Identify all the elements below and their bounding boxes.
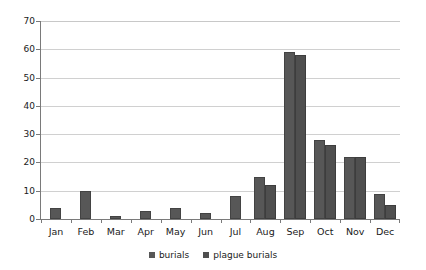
x-tick-cell [191, 219, 221, 224]
bar-group [280, 21, 310, 219]
bar-group [221, 21, 251, 219]
chart-legend: burialsplague burials [0, 250, 426, 260]
bar [344, 157, 355, 219]
x-axis-label: Oct [310, 226, 340, 238]
x-axis-label: Jun [191, 226, 221, 238]
x-tick-cell [71, 219, 101, 224]
bar-group [131, 21, 161, 219]
bar-group [161, 21, 191, 219]
y-tick-label: 0 [29, 215, 35, 224]
y-tick-label: 50 [24, 73, 35, 82]
x-tick-mark [191, 219, 192, 223]
x-tick-cell [131, 219, 161, 224]
bar [230, 196, 241, 219]
bar [80, 191, 91, 219]
x-tick-cell [340, 219, 370, 224]
bar [50, 208, 61, 219]
x-tick-mark [71, 219, 72, 223]
x-tick-cell [101, 219, 131, 224]
bar [374, 194, 385, 219]
y-tick-mark [36, 106, 40, 107]
x-tick-mark [310, 219, 311, 223]
x-tick-mark [161, 219, 162, 223]
x-axis-label: Apr [131, 226, 161, 238]
y-tick-mark [36, 162, 40, 163]
x-tick-cell [250, 219, 280, 224]
bar-group [191, 21, 221, 219]
legend-label: burials [159, 250, 189, 260]
legend-swatch-icon [149, 252, 155, 258]
y-tick-label: 70 [24, 17, 35, 26]
x-tick-cell [280, 219, 310, 224]
x-tick-cell [41, 219, 71, 224]
bar [295, 55, 306, 219]
y-tick-label: 60 [24, 45, 35, 54]
bar [254, 177, 265, 219]
bar-group [310, 21, 340, 219]
x-tick-mark [370, 219, 371, 223]
x-axis-ticks [41, 219, 400, 224]
bar [385, 205, 396, 219]
x-axis-label: Jul [221, 226, 251, 238]
legend-label: plague burials [213, 250, 277, 260]
y-tick-mark [36, 134, 40, 135]
x-tick-mark [101, 219, 102, 223]
y-tick-mark [36, 49, 40, 50]
x-axis-label: Feb [71, 226, 101, 238]
bar [265, 185, 276, 219]
y-tick-label: 30 [24, 130, 35, 139]
x-axis-label: Jan [41, 226, 71, 238]
x-tick-cell [370, 219, 400, 224]
x-tick-mark [340, 219, 341, 223]
x-axis-label: Dec [370, 226, 400, 238]
bar [355, 157, 366, 219]
bar-chart: 706050403020100 JanFebMarAprMayJunJulAug… [0, 0, 426, 270]
bar [284, 52, 295, 219]
bar-group [101, 21, 131, 219]
x-axis-labels: JanFebMarAprMayJunJulAugSepOctNovDec [41, 226, 400, 238]
x-tick-mark [131, 219, 132, 223]
x-tick-mark [280, 219, 281, 223]
bar-group [250, 21, 280, 219]
y-tick-mark [36, 21, 40, 22]
y-tick-label: 20 [24, 158, 35, 167]
x-tick-cell [221, 219, 251, 224]
bar [170, 208, 181, 219]
bars-layer [41, 21, 400, 219]
x-axis-label: Mar [101, 226, 131, 238]
bar-group [41, 21, 71, 219]
x-axis-label: May [161, 226, 191, 238]
y-tick-mark [36, 78, 40, 79]
x-tick-mark [41, 219, 42, 223]
bar-group [71, 21, 101, 219]
x-tick-mark [221, 219, 222, 223]
bar [325, 145, 336, 219]
legend-item: burials [149, 250, 189, 260]
y-tick-mark [36, 191, 40, 192]
x-tick-mark [250, 219, 251, 223]
bar-group [340, 21, 370, 219]
y-tick-label: 10 [24, 186, 35, 195]
x-axis-label: Aug [250, 226, 280, 238]
x-axis-label: Sep [280, 226, 310, 238]
bar [140, 211, 151, 219]
bar [314, 140, 325, 219]
legend-item: plague burials [203, 250, 277, 260]
bar-group [370, 21, 400, 219]
x-tick-mark [399, 219, 400, 223]
y-tick-mark [36, 219, 40, 220]
y-tick-label: 40 [24, 101, 35, 110]
x-tick-cell [310, 219, 340, 224]
x-tick-cell [161, 219, 191, 224]
x-axis-label: Nov [340, 226, 370, 238]
legend-swatch-icon [203, 252, 209, 258]
